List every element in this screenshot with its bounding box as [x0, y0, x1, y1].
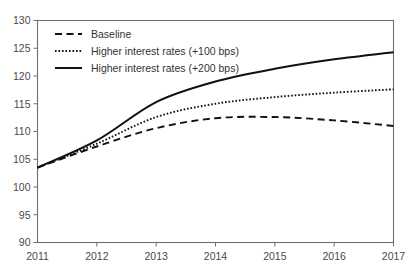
legend-item-label: Higher interest rates (+200 bps) — [91, 62, 239, 74]
legend-item-label: Baseline — [91, 28, 131, 40]
series-line — [38, 117, 394, 168]
x-axis-tick-label: 2016 — [322, 250, 346, 262]
x-axis-tick-label: 2012 — [85, 250, 109, 262]
x-axis-tick-label: 2014 — [204, 250, 228, 262]
y-axis-tick-label: 90 — [19, 236, 31, 248]
chart-legend: BaselineHigher interest rates (+100 bps)… — [55, 28, 239, 74]
y-axis-tick-label: 110 — [14, 125, 31, 137]
chart-container: 9095100105110115120125130 20112012201320… — [0, 0, 412, 278]
x-axis-tick-label: 2013 — [144, 250, 168, 262]
line-chart: 9095100105110115120125130 20112012201320… — [0, 0, 412, 278]
series-line — [38, 89, 394, 167]
y-axis-tick-label: 120 — [13, 70, 31, 82]
legend-item-label: Higher interest rates (+100 bps) — [91, 45, 239, 57]
y-axis-tick-label: 115 — [14, 98, 31, 110]
x-axis-ticks: 2011201220132014201520162017 — [26, 243, 405, 262]
x-axis-tick-label: 2017 — [382, 250, 406, 262]
y-axis-tick-label: 95 — [19, 209, 31, 221]
x-axis-tick-label: 2011 — [26, 250, 49, 262]
x-axis-tick-label: 2015 — [263, 250, 287, 262]
y-axis-tick-label: 125 — [13, 42, 31, 54]
y-axis-tick-label: 130 — [13, 14, 31, 26]
y-axis-ticks: 9095100105110115120125130 — [13, 14, 38, 248]
y-axis-tick-label: 105 — [13, 153, 31, 165]
y-axis-tick-label: 100 — [13, 181, 31, 193]
